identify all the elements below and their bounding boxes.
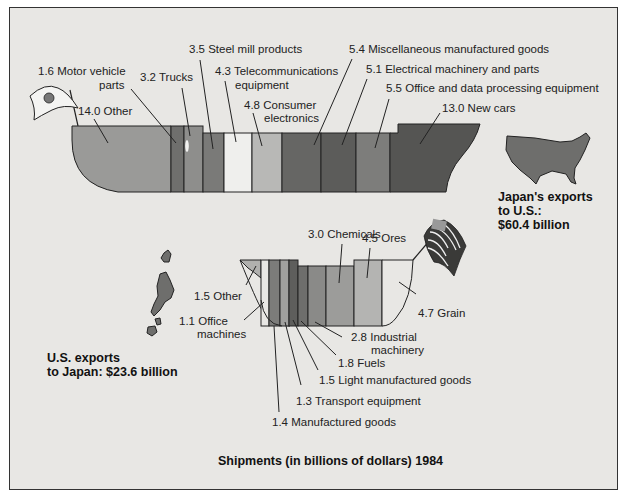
japan-flag-icon	[30, 86, 78, 126]
us-exports-total: to Japan: $23.6 billion	[47, 365, 178, 379]
label-jp-misc: 5.4 Miscellaneous manufactured goods	[349, 43, 549, 55]
japan-map-icon	[147, 250, 174, 336]
segment-jp-steel	[203, 133, 224, 192]
label-jp-telecom-2: equipment	[235, 79, 290, 91]
label-jp-trucks: 3.2 Trucks	[140, 71, 193, 83]
label-jp-motor-parts: 1.6 Motor vehicle	[38, 65, 126, 77]
chart-caption: Shipments (in billions of dollars) 1984	[218, 454, 443, 468]
label-jp-steel: 3.5 Steel mill products	[189, 43, 302, 55]
japan-exports-title: Japan's exports	[498, 190, 593, 204]
label-us-ores: 4.5 Ores	[362, 232, 406, 244]
label-us-fuels: 1.8 Fuels	[338, 357, 386, 369]
segment-jp-new-cars	[390, 124, 480, 192]
segment-us-office-machines	[261, 260, 269, 326]
label-jp-consumer: 4.8 Consumer	[244, 99, 316, 111]
label-jp-other: 14.0 Other	[78, 105, 133, 117]
trade-ships-illustration: 14.0 Other 1.6 Motor vehicle parts 3.2 T…	[0, 0, 628, 504]
segment-jp-consumer-electronics	[252, 133, 282, 192]
us-export-ship: 3.0 Chemicals 4.5 Ores 1.5 Other 1.1 Off…	[179, 219, 471, 428]
label-jp-motor-parts-2: parts	[99, 79, 125, 91]
label-us-transport: 1.3 Transport equipment	[296, 395, 421, 407]
label-us-manufactured: 1.4 Manufactured goods	[272, 416, 396, 428]
japan-exports-total: $60.4 billion	[498, 218, 570, 232]
label-us-industrial-2: machinery	[371, 344, 424, 356]
us-exports-title: U.S. exports	[47, 351, 120, 365]
segment-us-manufactured-goods	[269, 260, 280, 326]
label-jp-electrical: 5.1 Electrical machinery and parts	[366, 63, 539, 75]
segment-jp-trucks	[184, 126, 203, 192]
segment-us-fuels	[298, 266, 308, 326]
label-jp-consumer-2: electronics	[264, 112, 319, 124]
label-jp-new-cars: 13.0 New cars	[442, 102, 516, 114]
label-jp-office: 5.5 Office and data processing equipment	[386, 82, 599, 94]
segment-jp-other	[72, 126, 171, 192]
segment-us-transport	[280, 260, 289, 326]
japan-export-ship: 14.0 Other 1.6 Motor vehicle parts 3.2 T…	[30, 43, 599, 192]
label-us-light-mfg: 1.5 Light manufactured goods	[319, 374, 471, 386]
label-us-office: 1.1 Office	[179, 315, 228, 327]
label-us-office-2: machines	[197, 328, 246, 340]
segment-jp-electrical	[321, 133, 356, 192]
segment-jp-office-equipment	[356, 133, 390, 192]
segment-us-industrial	[308, 266, 326, 326]
segment-us-grain	[382, 260, 413, 326]
segment-us-light-manufactured	[289, 260, 298, 326]
us-flag-icon	[413, 219, 466, 276]
label-us-industrial: 2.8 Industrial	[351, 331, 417, 343]
japan-exports-title-2: to U.S.:	[498, 204, 542, 218]
us-map-icon	[506, 133, 590, 184]
segment-jp-motor-vehicle-parts	[171, 126, 184, 192]
label-jp-telecom: 4.3 Telecommunications	[215, 65, 338, 77]
segment-jp-telecom	[224, 133, 252, 192]
label-us-grain: 4.7 Grain	[418, 307, 465, 319]
label-us-other: 1.5 Other	[194, 290, 242, 302]
